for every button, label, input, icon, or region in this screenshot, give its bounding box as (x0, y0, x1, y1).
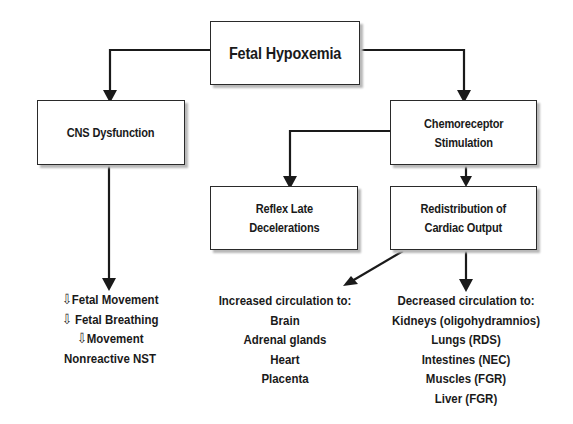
chemoreceptor-label-line1: Chemoreceptor (424, 114, 503, 133)
list-item: Placenta (213, 369, 358, 389)
down-arrow-icon: ⇩ (62, 290, 72, 310)
cns-dysfunction-label: CNS Dysfunction (67, 123, 155, 142)
redistribution-label-line1: Redistribution of (421, 199, 507, 218)
fetal-hypoxemia-label: Fetal Hypoxemia (229, 44, 341, 63)
list-item: Brain (213, 311, 358, 331)
list-item: Intestines (NEC) (391, 350, 541, 370)
arrowhead-increased (343, 276, 358, 286)
list-item: Adrenal glands (213, 330, 358, 350)
increased-heading: Increased circulation to: (213, 291, 358, 311)
list-item: Liver (FGR) (391, 389, 541, 409)
down-arrow-icon: ⇩ (62, 310, 72, 330)
cns-effects-list: ⇩Fetal Movement ⇩ Fetal Breathing ⇩Movem… (20, 290, 200, 368)
list-item: Lungs (RDS) (391, 330, 541, 350)
reflex-label-line1: Reflex Late (249, 199, 319, 218)
decreased-heading: Decreased circulation to: (391, 291, 541, 311)
list-item: ⇩Fetal Movement (34, 290, 187, 310)
increased-circulation-list: Increased circulation to: Brain Adrenal … (200, 291, 370, 389)
list-item: Muscles (FGR) (391, 369, 541, 389)
reflex-late-decelerations-box: Reflex Late Decelerations (210, 186, 358, 250)
list-item: ⇩ Fetal Breathing (34, 310, 187, 330)
list-item: Heart (213, 350, 358, 370)
list-item: Nonreactive NST (34, 349, 187, 369)
list-item: ⇩Movement (34, 329, 187, 349)
fetal-hypoxemia-box: Fetal Hypoxemia (210, 21, 360, 85)
redistribution-label-line2: Cardiac Output (421, 218, 507, 237)
list-item: Kidneys (oligohydramnios) (391, 311, 541, 331)
redistribution-box: Redistribution of Cardiac Output (390, 186, 537, 250)
chemoreceptor-label-line2: Stimulation (424, 133, 503, 152)
decreased-circulation-list: Decreased circulation to: Kidneys (oligo… (378, 291, 554, 408)
reflex-label-line2: Decelerations (249, 218, 319, 237)
down-arrow-icon: ⇩ (77, 329, 87, 349)
cns-dysfunction-box: CNS Dysfunction (37, 100, 185, 165)
chemoreceptor-box: Chemoreceptor Stimulation (390, 100, 537, 165)
